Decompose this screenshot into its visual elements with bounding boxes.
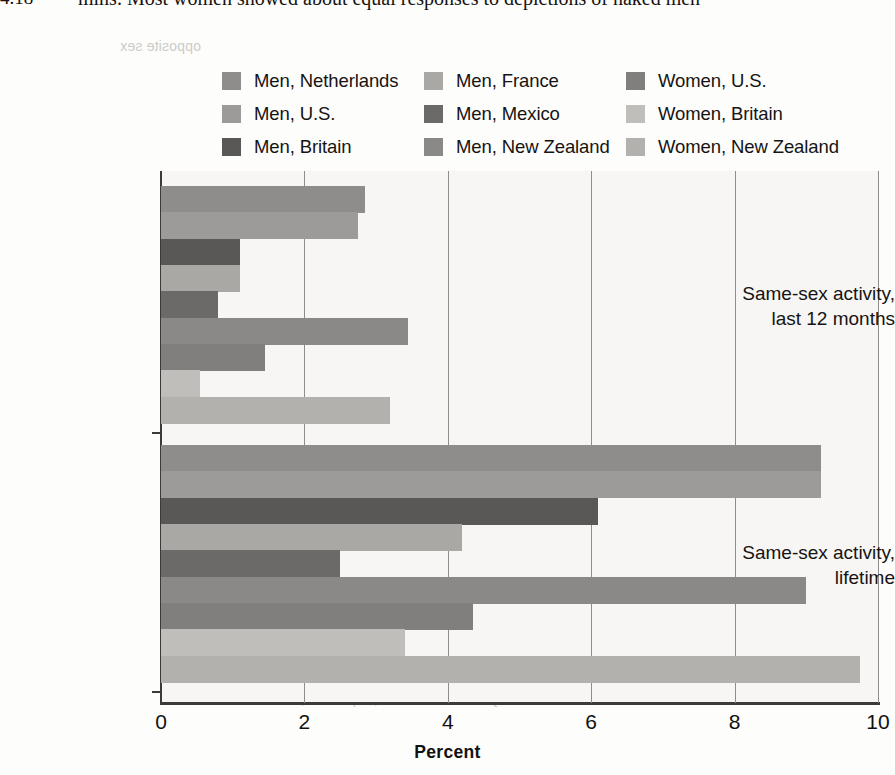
legend-item[interactable]: Men, Mexico [424,97,610,130]
legend-item[interactable]: Men, France [424,64,610,97]
y-category-label-1-line-0: Same-sex activity, [665,540,895,565]
x-tick-label-4: 4 [442,710,454,734]
x-tick-label-6: 6 [585,710,597,734]
bar [161,445,821,472]
x-axis-line [160,702,880,705]
legend-label: Women, Britain [658,103,783,125]
bar [161,629,405,656]
legend-label: Men, Britain [254,136,352,158]
chart-legend: Men, NetherlandsMen, U.S.Men, BritainMen… [222,64,862,168]
legend-swatch-icon [222,105,241,123]
ghost-text-line: opposite sex [120,38,201,54]
legend-label: Men, Mexico [456,103,560,125]
chart-plot-area [161,171,878,703]
legend-item[interactable]: Women, New Zealand [626,130,839,163]
legend-item[interactable]: Men, New Zealand [424,130,610,163]
legend-column-2: Women, U.S.Women, BritainWomen, New Zeal… [626,64,839,163]
y-group-tick-0 [152,432,161,434]
bar [161,471,821,498]
x-tick-label-0: 0 [155,710,167,734]
legend-column-1: Men, FranceMen, MexicoMen, New Zealand [424,64,610,163]
bar [161,656,860,683]
x-tick-label-2: 2 [299,710,311,734]
page-running-text: 4.18 mins. Most women showed about equal… [0,0,895,30]
legend-swatch-icon [222,72,241,90]
y-group-tick-1 [152,691,161,693]
bar [161,265,240,292]
bar [161,239,240,266]
legend-swatch-icon [424,138,443,156]
x-tick-label-10: 10 [866,710,889,734]
bar [161,291,218,318]
legend-column-0: Men, NetherlandsMen, U.S.Men, Britain [222,64,398,163]
gridline-x-6 [591,171,592,703]
y-category-label-0-line-1: last 12 months [665,306,895,331]
legend-swatch-icon [424,105,443,123]
legend-label: Men, U.S. [254,103,335,125]
bar [161,186,365,213]
figure-number: 4.18 [0,0,33,9]
bar [161,397,390,424]
running-text: mins. Most women showed about equal resp… [78,0,700,10]
bar [161,344,265,371]
legend-label: Women, U.S. [658,70,767,92]
legend-item[interactable]: Men, Britain [222,130,398,163]
gridline-x-8 [735,171,736,703]
x-tick-label-8: 8 [729,710,741,734]
legend-label: Men, Netherlands [254,70,398,92]
y-category-label-1: Same-sex activity, lifetime [665,540,895,590]
legend-swatch-icon [626,138,645,156]
bar [161,370,200,397]
legend-swatch-icon [424,72,443,90]
x-axis-title: Percent [0,742,895,763]
legend-label: Men, New Zealand [456,136,610,158]
legend-label: Men, France [456,70,559,92]
legend-swatch-icon [626,105,645,123]
bar [161,603,473,630]
bar [161,524,462,551]
legend-swatch-icon [626,72,645,90]
bar [161,550,340,577]
bar [161,498,598,525]
legend-item[interactable]: Women, U.S. [626,64,839,97]
legend-swatch-icon [222,138,241,156]
legend-item[interactable]: Women, Britain [626,97,839,130]
y-category-label-0-line-0: Same-sex activity, [665,281,895,306]
y-category-label-1-line-1: lifetime [665,565,895,590]
legend-item[interactable]: Men, U.S. [222,97,398,130]
gridline-x-10 [878,171,879,703]
bar [161,318,408,345]
bar [161,212,358,239]
legend-item[interactable]: Men, Netherlands [222,64,398,97]
y-category-label-0: Same-sex activity, last 12 months [665,281,895,331]
legend-label: Women, New Zealand [658,136,839,158]
